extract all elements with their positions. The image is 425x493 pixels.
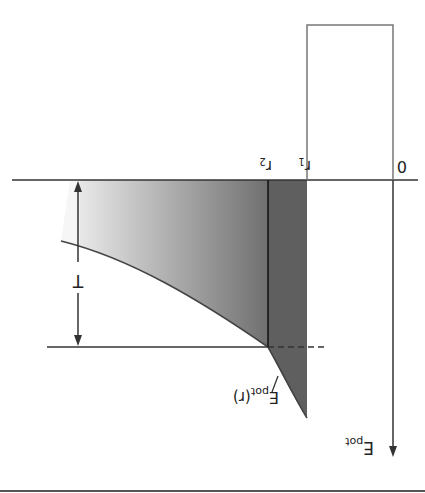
y-axis-label: Epot bbox=[345, 435, 374, 458]
well-box bbox=[307, 25, 393, 180]
potential-energy-diagram: 0 r1 r2 T Epot Epot(r) bbox=[0, 0, 425, 493]
vertical-axis-arrow-icon bbox=[389, 446, 397, 457]
barrier-height-label: T bbox=[72, 271, 84, 291]
shaded-region bbox=[61, 180, 268, 347]
r2-label: r2 bbox=[259, 156, 272, 175]
r1-label: r1 bbox=[298, 156, 311, 175]
arrow-down-icon bbox=[74, 335, 82, 346]
curve-label: Epot(r) bbox=[233, 385, 279, 407]
origin-label: 0 bbox=[397, 157, 407, 176]
